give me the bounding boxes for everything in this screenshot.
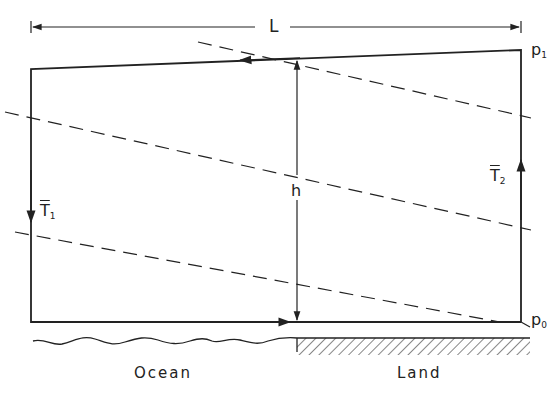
sea-breeze-diagram <box>0 0 560 395</box>
isobars <box>5 42 531 322</box>
pressure-bottom-sub: 0 <box>541 320 547 330</box>
isobar-lower <box>15 232 500 322</box>
temp-right-base: T <box>490 166 500 185</box>
pressure-bottom-label: p0 <box>531 312 547 330</box>
temp-left-base: T <box>40 201 50 220</box>
land-surface <box>297 338 530 355</box>
length-label: L <box>269 18 278 35</box>
temp-left-sub: 1 <box>50 211 56 221</box>
ocean-label: Ocean <box>134 366 192 381</box>
temp-right-label: T2 <box>490 168 506 186</box>
pressure-bottom-base: p <box>531 310 541 329</box>
ocean-surface <box>33 338 297 345</box>
circulation-loop <box>31 50 521 322</box>
temp-right-sub: 2 <box>500 176 506 186</box>
pressure-top-base: p <box>531 40 541 59</box>
pressure-top-label: p1 <box>531 42 547 60</box>
temp-left-label: T1 <box>40 203 56 221</box>
isobar-upper <box>198 42 531 118</box>
height-label: h <box>291 183 301 199</box>
pressure-top-sub: 1 <box>541 50 547 60</box>
land-label: Land <box>397 366 442 381</box>
p0-tick <box>521 322 530 327</box>
isobar-middle <box>5 112 531 230</box>
